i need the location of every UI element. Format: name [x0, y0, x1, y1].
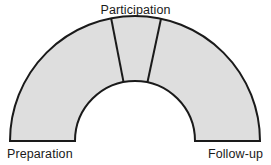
arch-diagram: Participation Preparation Follow-up	[0, 0, 271, 165]
segment-label-participation: Participation	[0, 4, 271, 17]
arch-body-shape	[10, 16, 260, 141]
arch-graphic	[0, 0, 271, 165]
segment-label-preparation: Preparation	[7, 148, 73, 161]
segment-label-followup: Follow-up	[208, 148, 263, 161]
